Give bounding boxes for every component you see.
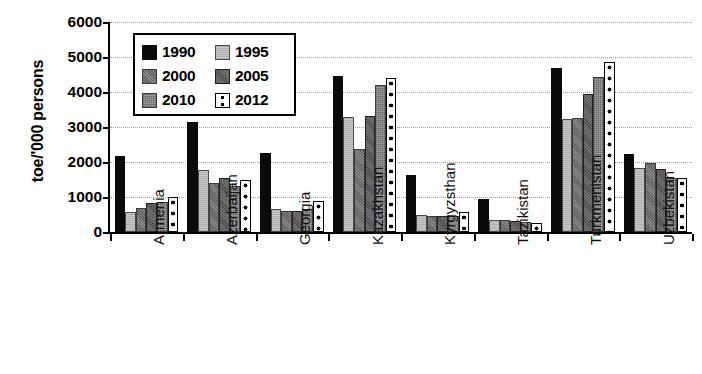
bar [198, 170, 209, 232]
bar [136, 208, 147, 233]
bar-group [551, 22, 615, 232]
bar-group [333, 22, 397, 232]
x-tickmark [474, 234, 476, 241]
legend-swatch-2005 [215, 69, 230, 84]
bar-group [624, 22, 688, 232]
bar [260, 153, 271, 232]
bar [271, 209, 282, 232]
legend-entry-2005: 2005 [215, 67, 288, 85]
x-tickmark [547, 234, 549, 241]
legend-swatch-2012 [215, 93, 230, 108]
bar [478, 199, 489, 232]
legend-label-2005: 2005 [235, 67, 268, 85]
x-axis-label: Georgia [296, 192, 313, 245]
y-tickmark [103, 22, 110, 24]
legend-label-1995: 1995 [235, 43, 268, 61]
legend-entry-1995: 1995 [215, 43, 288, 61]
x-tickmark [619, 234, 621, 241]
x-axis-label: Azerbaijan [223, 174, 240, 245]
bar [531, 223, 542, 232]
x-axis-label: Tazikistan [514, 179, 531, 245]
bar [386, 78, 397, 232]
legend-entry-2010: 2010 [142, 91, 215, 109]
x-tickmark [692, 234, 694, 241]
bar [115, 156, 126, 232]
bar [572, 118, 583, 232]
legend-entry-1990: 1990 [142, 43, 215, 61]
y-tick-label: 2000 [46, 154, 102, 170]
legend-label-2010: 2010 [162, 91, 195, 109]
x-tickmark [110, 234, 112, 241]
y-tickmark [103, 197, 110, 199]
bar [333, 76, 344, 232]
legend-row: 2000 2005 [142, 64, 288, 88]
y-tick-label: 5000 [46, 49, 102, 65]
y-tickmark [103, 92, 110, 94]
bar [645, 163, 656, 232]
bar [125, 212, 136, 232]
legend-swatch-1990 [142, 45, 157, 60]
bar [427, 216, 438, 232]
bar-chart: toe/'000 persons 60005000400030002000100… [0, 0, 702, 374]
legend-label-2012: 2012 [235, 91, 268, 109]
y-tick-label: 0 [46, 224, 102, 240]
legend-row: 2010 2012 [142, 88, 288, 112]
y-tickmark [103, 232, 110, 234]
bar [624, 154, 635, 232]
bar [459, 212, 470, 232]
bar [416, 215, 427, 233]
bar [281, 211, 292, 232]
y-tickmark [103, 162, 110, 164]
legend-label-2000: 2000 [162, 67, 195, 85]
legend-swatch-2010 [142, 93, 157, 108]
bar-group [406, 22, 470, 232]
x-tickmark [328, 234, 330, 241]
x-axis-label: Uzbekistan [660, 171, 677, 245]
bar-group [478, 22, 542, 232]
y-tickmark [103, 127, 110, 129]
legend-row: 1990 1995 [142, 40, 288, 64]
bar [209, 183, 220, 232]
legend-swatch-1995 [215, 45, 230, 60]
x-tickmark [401, 234, 403, 241]
bar [406, 175, 417, 232]
bar [187, 122, 198, 232]
y-tick-label: 6000 [46, 14, 102, 30]
legend-swatch-2000 [142, 69, 157, 84]
bar [562, 119, 573, 232]
y-tick-label: 3000 [46, 119, 102, 135]
bar [677, 178, 688, 232]
x-axis-label: Armenia [150, 189, 167, 245]
x-axis-label: Kazakhstan [369, 167, 386, 245]
bar [168, 197, 179, 232]
x-tickmark [183, 234, 185, 241]
y-axis-tick-labels: 6000500040003000200010000 [44, 0, 102, 374]
y-tickmark [103, 57, 110, 59]
bar [354, 149, 365, 232]
legend-label-1990: 1990 [162, 43, 195, 61]
bar [313, 201, 324, 232]
bar [551, 68, 562, 233]
bar [489, 220, 500, 232]
bar [634, 168, 645, 232]
legend-entry-2012: 2012 [215, 91, 288, 109]
legend-entry-2000: 2000 [142, 67, 215, 85]
bar [343, 117, 354, 232]
chart-legend: 1990 1995 2000 2005 2010 [133, 33, 296, 116]
y-tick-label: 1000 [46, 189, 102, 205]
x-axis-label: Kyrgyzsthan [441, 162, 458, 245]
y-tick-label: 4000 [46, 84, 102, 100]
x-axis-label: Turkmenistan [587, 155, 604, 245]
bar [240, 180, 251, 232]
bar [604, 62, 615, 232]
bar [500, 220, 511, 232]
x-tickmark [256, 234, 258, 241]
